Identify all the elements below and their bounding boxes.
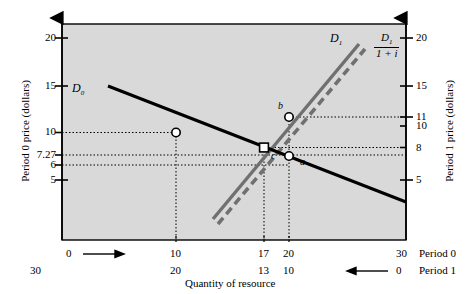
right-axis-tick-10: 10	[416, 120, 427, 131]
x-axis-title: Quantity of resource	[185, 277, 275, 289]
x-axis-period1-tick-0: 0	[396, 265, 402, 276]
fraction-numerator-subscript: 1	[389, 38, 393, 46]
right-axis-tick-20: 20	[416, 32, 427, 43]
x-axis-period0-name: Period 0	[419, 248, 456, 259]
curve-label-d1-subscript: 1	[339, 39, 343, 47]
data-point-d0-at-10	[172, 128, 180, 136]
right-axis-tick-15: 15	[416, 80, 427, 91]
plot-area-background	[62, 24, 406, 240]
x-axis-period1-name: Period 1	[419, 265, 456, 276]
chart-figure: 20 15 10 7.27 6 5 20 15 11 10 8 5 Period…	[0, 0, 470, 294]
curve-label-d1-text: D	[330, 31, 339, 45]
curve-label-d1: D1	[330, 32, 342, 47]
point-label-c: c	[271, 151, 275, 161]
x-axis-period0-tick-20: 20	[283, 248, 294, 259]
curve-label-d0-text: D	[72, 81, 81, 95]
data-point-a	[285, 152, 293, 160]
data-point-c-intersection	[260, 143, 269, 152]
curve-label-d0-subscript: 0	[81, 89, 85, 97]
x-axis-period1-tick-10: 10	[283, 265, 294, 276]
fraction-numerator: D1	[374, 32, 399, 48]
x-axis-period1-tick-20: 20	[170, 265, 181, 276]
point-label-a: a	[300, 157, 305, 167]
right-axis-title: Period 1 price (dollars)	[443, 61, 455, 201]
x-axis-period0-tick-10: 10	[170, 248, 181, 259]
x-axis-period1-tick-13: 13	[258, 265, 269, 276]
x-axis-period0-tick-30: 30	[396, 248, 407, 259]
x-axis-direction-arrows	[83, 251, 388, 275]
x-axis-period1-tick-30: 30	[30, 265, 41, 276]
fraction-d1-over-1-plus-i: D1 1 + i	[374, 32, 399, 59]
x-axis-period0-tick-0: 0	[66, 248, 72, 259]
right-axis-tick-8: 8	[416, 142, 422, 153]
point-label-b: b	[278, 101, 283, 111]
data-point-b	[285, 113, 293, 121]
left-axis-title: Period 0 price (dollars)	[19, 61, 31, 201]
right-axis-tick-5: 5	[416, 174, 422, 185]
curve-label-d0: D0	[72, 82, 84, 97]
left-axis-tick-20: 20	[26, 32, 56, 43]
x-axis-period0-tick-17: 17	[258, 248, 269, 259]
fraction-numerator-text: D	[381, 31, 389, 43]
curve-label-d1-discounted: D1 1 + i	[374, 32, 399, 60]
fraction-denominator: 1 + i	[374, 48, 399, 60]
